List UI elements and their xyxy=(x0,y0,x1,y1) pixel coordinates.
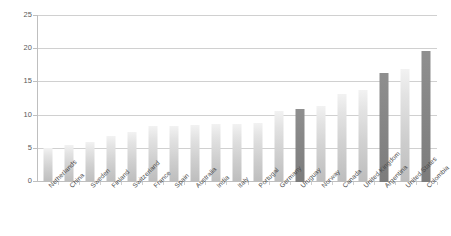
x-tick-mark xyxy=(416,182,417,185)
bar-netherlands xyxy=(43,148,52,182)
bar-slot xyxy=(248,15,269,182)
bar-slot xyxy=(79,15,100,182)
y-tick-mark-15 xyxy=(33,81,37,82)
bar-united-kingdom xyxy=(359,90,368,182)
y-tick-label-25: 25 xyxy=(4,11,32,19)
x-tick-mark xyxy=(290,182,291,185)
bar-slot xyxy=(142,15,163,182)
bar-portugal xyxy=(254,123,263,182)
bar-slot xyxy=(311,15,332,182)
y-tick-label-5: 5 xyxy=(4,144,32,152)
bar-slot xyxy=(37,15,58,182)
x-tick-mark xyxy=(226,182,227,185)
y-axis-labels: 0510152025 xyxy=(0,0,32,236)
x-tick-mark xyxy=(437,182,438,185)
bar-australia xyxy=(190,125,199,182)
x-axis-labels: NetherlandsChinaSwedenFinlandSwitzerland… xyxy=(37,182,437,236)
bar-slot xyxy=(163,15,184,182)
x-tick-mark xyxy=(395,182,396,185)
bar-italy xyxy=(232,124,241,182)
y-tick-mark-5 xyxy=(33,148,37,149)
x-tick-mark xyxy=(311,182,312,185)
bar-slot xyxy=(226,15,247,182)
bar-canada xyxy=(338,94,347,182)
y-tick-label-15: 15 xyxy=(4,77,32,85)
x-tick-mark xyxy=(374,182,375,185)
y-tick-mark-25 xyxy=(33,15,37,16)
bar-slot xyxy=(269,15,290,182)
y-tick-mark-10 xyxy=(33,115,37,116)
bar-slot xyxy=(100,15,121,182)
x-tick-mark xyxy=(332,182,333,185)
bar-slot xyxy=(121,15,142,182)
y-tick-label-10: 10 xyxy=(4,111,32,119)
bar-slot xyxy=(58,15,79,182)
bar-sweden xyxy=(85,142,94,183)
bar-slot xyxy=(353,15,374,182)
y-tick-label-0: 0 xyxy=(4,177,32,185)
x-tick-mark xyxy=(269,182,270,185)
x-tick-mark xyxy=(184,182,185,185)
bars-layer xyxy=(37,15,437,182)
y-tick-mark-0 xyxy=(33,181,37,182)
x-tick-mark xyxy=(248,182,249,185)
x-tick-mark xyxy=(205,182,206,185)
y-tick-mark-20 xyxy=(33,48,37,49)
bar-slot xyxy=(290,15,311,182)
bar-slot xyxy=(332,15,353,182)
y-tick-label-20: 20 xyxy=(4,44,32,52)
bar-slot xyxy=(205,15,226,182)
bar-slot xyxy=(184,15,205,182)
x-tick-mark xyxy=(353,182,354,185)
